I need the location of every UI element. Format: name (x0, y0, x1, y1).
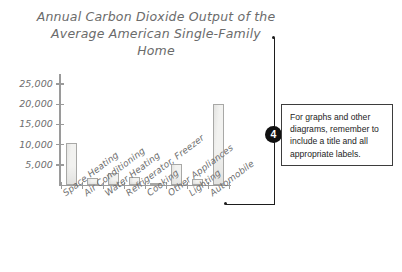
y-axis-tick-label: 10,000 (6, 139, 53, 151)
callout-leader-line-title (274, 38, 276, 128)
y-axis-tick-label: 25,000 (6, 78, 53, 90)
y-axis-tick-label-text: 25,000 (19, 78, 53, 89)
y-axis-tick (56, 83, 64, 84)
y-axis-tick-label-text: 10,000 (19, 139, 53, 150)
y-axis-line (59, 74, 61, 186)
y-axis-tick-label-text: 15,000 (19, 118, 53, 129)
callout-leader-line-labels-vertical (274, 141, 276, 205)
y-axis-tick-label: 20,000 (6, 98, 53, 110)
y-axis-tick-label: 5,000 (6, 159, 53, 171)
y-axis-tick (56, 104, 64, 105)
y-axis-tick (56, 144, 64, 145)
callout-text: For graphs and other diagrams, remember … (290, 111, 385, 160)
y-axis-tick (56, 164, 64, 165)
callout-number-badge: 4 (265, 126, 282, 143)
y-axis-tick (56, 124, 64, 125)
callout-leader-line-labels-horizontal (226, 204, 275, 206)
y-axis-tick-label-text: 5,000 (25, 159, 53, 170)
screenshot-canvas: Annual Carbon Dioxide Output of the Aver… (0, 0, 402, 272)
y-axis-tick-label-text: 20,000 (19, 98, 53, 109)
callout-box: For graphs and other diagrams, remember … (281, 104, 393, 166)
y-axis-tick-label: 15,000 (6, 118, 53, 130)
